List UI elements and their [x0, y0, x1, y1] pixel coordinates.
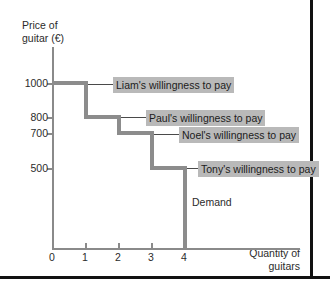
demand-step-1000	[52, 81, 88, 85]
x-tick-3	[151, 243, 153, 249]
demand-step-800	[84, 115, 121, 119]
x-tick-label-0: 0	[44, 251, 60, 263]
x-axis-line	[52, 248, 300, 250]
x-tick-0	[52, 243, 54, 249]
x-tick-label-3: 3	[143, 251, 159, 263]
y-tick-label-500: 500	[14, 162, 48, 174]
callout-liam-willingness: Liam's willingness to pay	[113, 77, 234, 93]
y-tick-label-700: 700	[14, 127, 48, 139]
demand-curve-figure: Price of guitar (€) Quantity of guitars …	[0, 0, 330, 290]
x-tick-2	[118, 243, 120, 249]
y-axis-title: Price of guitar (€)	[22, 19, 64, 45]
y-tick-label-1000: 1000	[14, 77, 48, 89]
x-tick-1	[85, 243, 87, 249]
plot-area: Price of guitar (€) Quantity of guitars …	[0, 0, 330, 290]
demand-drop-1000-800	[84, 81, 88, 119]
demand-curve-label: Demand	[192, 196, 232, 208]
callout-paul-willingness: Paul's willingness to pay	[146, 110, 265, 126]
demand-step-700	[117, 131, 154, 135]
x-axis-title: Quantity of guitars	[222, 247, 300, 273]
x-tick-label-1: 1	[77, 251, 93, 263]
y-tick-label-800: 800	[14, 111, 48, 123]
connector-paul	[121, 117, 147, 118]
demand-drop-700-500	[150, 131, 154, 170]
callout-noel-willingness: Noel's willingness to pay	[179, 127, 299, 143]
y-tick-label-500-wrap: 500	[10, 162, 48, 174]
y-axis-line	[52, 47, 54, 249]
connector-noel	[154, 134, 180, 135]
y-tick-label-1000-wrap: 1000	[10, 77, 48, 89]
x-tick-label-4: 4	[176, 251, 192, 263]
demand-step-500	[150, 166, 187, 170]
y-tick-label-800-wrap: 800	[10, 111, 48, 123]
demand-drop-to-axis	[183, 166, 187, 249]
y-tick-label-700-wrap: 700	[10, 127, 48, 139]
connector-liam	[88, 84, 114, 85]
x-tick-label-2: 2	[110, 251, 126, 263]
callout-tony-willingness: Tony's willingness to pay	[198, 161, 319, 177]
